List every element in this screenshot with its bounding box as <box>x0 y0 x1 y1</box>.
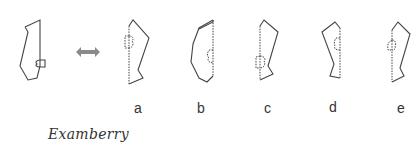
option-e-shape-icon <box>388 20 418 86</box>
reference-figure <box>18 18 48 86</box>
option-label-a[interactable]: a <box>134 100 142 116</box>
double-arrow-icon <box>76 44 100 62</box>
option-label-e[interactable]: e <box>397 100 405 116</box>
option-figure-b[interactable] <box>191 20 221 86</box>
option-d-shape-icon <box>320 20 350 86</box>
option-label-d[interactable]: d <box>329 99 337 115</box>
option-a-shape-icon <box>124 20 154 86</box>
reference-shape-icon <box>18 18 48 86</box>
option-c-shape-icon <box>256 20 286 86</box>
brand-watermark: Examberry <box>48 126 129 142</box>
option-figure-a[interactable] <box>124 20 154 86</box>
option-figure-d[interactable] <box>320 20 350 86</box>
option-b-shape-icon <box>191 20 221 86</box>
option-label-c[interactable]: c <box>264 100 271 116</box>
option-figure-e[interactable] <box>388 20 418 86</box>
option-label-b[interactable]: b <box>197 100 205 116</box>
option-figure-c[interactable] <box>256 20 286 86</box>
